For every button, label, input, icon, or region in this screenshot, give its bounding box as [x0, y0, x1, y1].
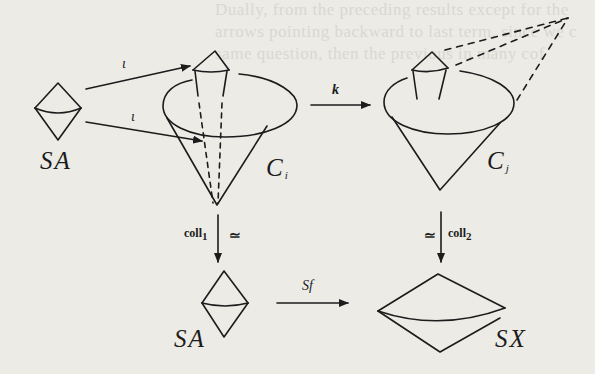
label-coll1: coll1: [184, 227, 208, 242]
label-cj-main: C: [487, 147, 506, 174]
label-iota-upper: ι: [122, 57, 126, 71]
label-coll2-equiv: ≃: [424, 229, 436, 243]
diagram-canvas: Dually, from the preceding results excep…: [0, 0, 595, 374]
diagram-drawing: [0, 0, 595, 374]
suspension-sa-top-shape: [35, 83, 81, 140]
label-coll1-main: coll: [184, 226, 202, 240]
label-sx: SX: [495, 326, 527, 351]
cone-cj-shape: [384, 18, 568, 190]
label-ci: Ci: [266, 155, 290, 181]
label-coll2-sub: 2: [466, 230, 472, 242]
label-k: k: [332, 83, 339, 97]
label-coll1-equiv: ≃: [229, 229, 241, 243]
label-sa-bottom: SA: [174, 326, 206, 351]
label-cj-sub: j: [506, 162, 511, 174]
label-coll1-sub: 1: [202, 230, 208, 242]
arrow-iota-lower: [86, 122, 202, 141]
cone-ci-shape: [163, 51, 297, 205]
suspension-sa-bottom-shape: [202, 271, 248, 337]
suspension-sx-shape: [378, 274, 505, 352]
label-coll2: coll2: [448, 227, 472, 242]
label-sa-top: SA: [40, 148, 72, 173]
label-ci-sub: i: [285, 169, 290, 181]
label-ci-main: C: [266, 154, 285, 181]
label-iota-lower: ι: [131, 110, 135, 124]
label-sf: Sf: [302, 279, 313, 293]
label-cj: Cj: [487, 148, 511, 174]
label-coll2-main: coll: [448, 226, 466, 240]
